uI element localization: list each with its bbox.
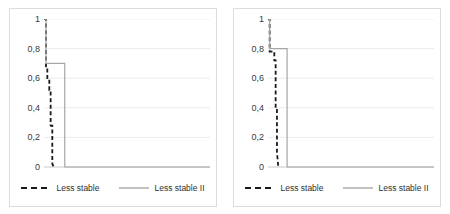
solid-line-swatch	[119, 185, 149, 191]
y-tick-label: 0	[35, 162, 40, 172]
plot-area-right: 00,20,40,60,81	[234, 9, 440, 206]
series-line	[44, 19, 210, 167]
y-tick-label: 1	[35, 14, 40, 24]
figure-sheet: 00,20,40,60,81 Less stable Less stable I…	[0, 0, 450, 214]
legend-label-less-stable-ii: Less stable II	[154, 184, 204, 193]
dashed-line-swatch	[245, 185, 275, 191]
legend-right: Less stable Less stable II	[234, 184, 440, 193]
plot-area-left: 00,20,40,60,81	[10, 9, 216, 206]
chart-svg	[268, 19, 434, 169]
plot-canvas-left	[44, 19, 210, 167]
y-tick-label: 0,6	[251, 73, 264, 83]
legend-item-less-stable: Less stable	[245, 184, 323, 193]
chart-panel-left: 00,20,40,60,81 Less stable Less stable I…	[9, 8, 217, 207]
chart-panel-right: 00,20,40,60,81 Less stable Less stable I…	[233, 8, 441, 207]
y-tick-label: 0,8	[251, 44, 264, 54]
chart-svg	[44, 19, 210, 169]
y-tick-label: 0,4	[27, 103, 40, 113]
plot-canvas-right	[268, 19, 434, 167]
legend-label-less-stable-ii: Less stable II	[378, 184, 428, 193]
y-tick-label: 1	[259, 14, 264, 24]
series-line	[268, 19, 434, 167]
y-tick-label: 0,6	[27, 73, 40, 83]
y-tick-label: 0,2	[27, 132, 40, 142]
y-tick-label: 0,8	[27, 44, 40, 54]
solid-line-swatch	[343, 185, 373, 191]
dashed-line-swatch	[21, 185, 51, 191]
y-axis-tick-labels-right: 00,20,40,60,81	[238, 19, 264, 167]
y-tick-label: 0,4	[251, 103, 264, 113]
legend-label-less-stable: Less stable	[56, 184, 99, 193]
legend-item-less-stable: Less stable	[21, 184, 99, 193]
y-tick-label: 0,2	[251, 132, 264, 142]
legend-left: Less stable Less stable II	[10, 184, 216, 193]
legend-item-less-stable-ii: Less stable II	[119, 184, 204, 193]
legend-item-less-stable-ii: Less stable II	[343, 184, 428, 193]
y-axis-tick-labels-left: 00,20,40,60,81	[14, 19, 40, 167]
y-tick-label: 0	[259, 162, 264, 172]
legend-label-less-stable: Less stable	[280, 184, 323, 193]
